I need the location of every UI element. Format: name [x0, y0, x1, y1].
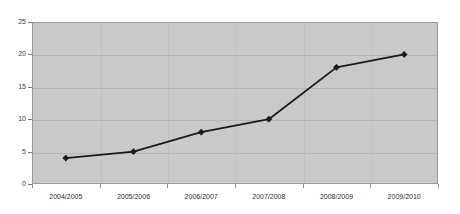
- category-divider: [168, 23, 169, 183]
- category-divider: [101, 23, 102, 183]
- x-axis-tick-label: 2009/2010: [370, 192, 438, 201]
- y-axis-tick-mark: [28, 54, 32, 55]
- x-axis-tick-mark: [32, 184, 33, 188]
- x-axis-tick-label: 2008/2009: [303, 192, 371, 201]
- x-axis-tick-mark: [100, 184, 101, 188]
- x-axis-tick-mark: [303, 184, 304, 188]
- x-axis-tick-mark: [167, 184, 168, 188]
- category-divider: [236, 23, 237, 183]
- y-axis-tick-mark: [28, 152, 32, 153]
- gridline: [33, 153, 437, 154]
- x-axis-tick-mark: [370, 184, 371, 188]
- y-axis-tick-label: 5: [0, 148, 26, 156]
- y-axis-tick-mark: [28, 22, 32, 23]
- gridline: [33, 55, 437, 56]
- x-axis-tick-label: 2004/2005: [32, 192, 100, 201]
- x-axis-tick-mark: [438, 184, 439, 188]
- x-axis-tick-label: 2005/2006: [100, 192, 168, 201]
- y-axis-tick-label: 10: [0, 115, 26, 123]
- y-axis-tick-label: 20: [0, 50, 26, 58]
- category-divider: [304, 23, 305, 183]
- gridline: [33, 88, 437, 89]
- category-divider: [371, 23, 372, 183]
- plot-area: [32, 22, 438, 184]
- y-axis-tick-label: 0: [0, 180, 26, 188]
- y-axis-tick-mark: [28, 87, 32, 88]
- x-axis-tick-label: 2006/2007: [167, 192, 235, 201]
- gridline: [33, 120, 437, 121]
- x-axis-tick-mark: [235, 184, 236, 188]
- x-axis-tick-label: 2007/2008: [235, 192, 303, 201]
- y-axis-tick-label: 15: [0, 83, 26, 91]
- y-axis-tick-label: 25: [0, 18, 26, 26]
- y-axis-tick-mark: [28, 119, 32, 120]
- line-chart: 0510152025 2004/20052005/20062006/200720…: [0, 0, 460, 214]
